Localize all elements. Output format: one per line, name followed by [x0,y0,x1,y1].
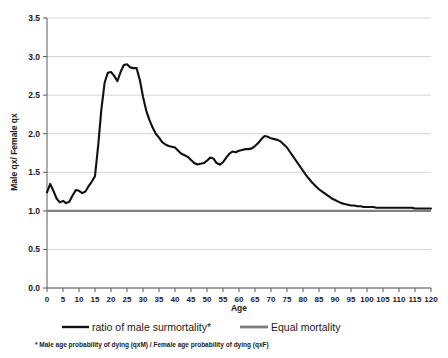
x-tick-label: 0 [45,295,50,304]
x-tick-label: 70 [267,295,276,304]
y-axis-ticks-group: 0.00.51.01.52.02.53.03.5 [28,13,47,293]
x-tick-label: 40 [171,295,180,304]
legend-label-equal: Equal mortality [271,321,341,333]
x-tick-label: 115 [409,295,422,304]
x-tick-label: 5 [61,295,66,304]
x-tick-label: 105 [376,295,390,304]
x-tick-label: 80 [299,295,308,304]
male-surmortality-ratio-line [47,64,431,208]
y-axis-title: Male qx/ Female qx [9,113,19,191]
x-tick-label: 25 [123,295,132,304]
x-tick-label: 50 [203,295,212,304]
x-tick-label: 55 [219,295,228,304]
y-tick-label: 0.0 [28,283,40,293]
y-tick-label: 0.5 [28,244,40,254]
y-tick-label: 2.0 [28,129,40,139]
x-tick-label: 75 [283,295,292,304]
mortality-ratio-chart: 0.00.51.01.52.02.53.03.5 051015202530354… [0,0,448,358]
x-axis-ticks-group: 0510152025303540455055606570758085909510… [45,288,438,304]
x-tick-label: 85 [315,295,324,304]
y-tick-label: 1.5 [28,167,40,177]
chart-canvas: 0.00.51.01.52.02.53.03.5 051015202530354… [0,0,448,358]
x-tick-label: 35 [155,295,164,304]
x-tick-label: 110 [393,295,406,304]
x-tick-label: 90 [331,295,340,304]
y-tick-label: 3.0 [28,52,40,62]
legend-label-ratio: ratio of male surmortality* [92,321,211,333]
y-tick-label: 1.0 [28,206,40,216]
x-tick-label: 95 [347,295,356,304]
x-tick-label: 20 [107,295,116,304]
x-tick-label: 30 [139,295,148,304]
x-tick-label: 120 [424,295,438,304]
chart-footnote: * Male age probability of dying (qxM) / … [35,341,269,349]
gridlines-group [47,18,431,288]
x-tick-label: 65 [251,295,260,304]
x-tick-label: 15 [91,295,100,304]
x-axis-title: Age [231,303,247,313]
y-tick-label: 2.5 [28,90,40,100]
x-tick-label: 100 [360,295,374,304]
y-tick-label: 3.5 [28,13,40,23]
x-tick-label: 45 [187,295,196,304]
legend: ratio of male surmortality* Equal mortal… [62,321,341,333]
x-tick-label: 10 [75,295,84,304]
